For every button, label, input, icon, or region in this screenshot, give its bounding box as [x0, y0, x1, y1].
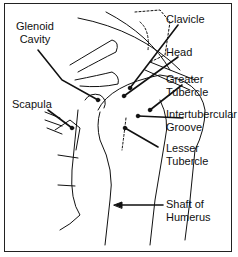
label-intertubercular-groove: Intertubercular Groove	[166, 108, 237, 134]
label-head: Head	[166, 46, 192, 59]
label-scapula: Scapula	[12, 98, 52, 111]
label-greater-tubercle: Greater Tubercle	[166, 73, 208, 99]
label-lesser-tubercle: Lesser Tubercle	[166, 142, 208, 168]
label-glenoid-cavity: Glenoid Cavity	[16, 20, 54, 46]
label-clavicle: Clavicle	[166, 13, 205, 26]
label-shaft-of-humerus: Shaft of Humerus	[166, 198, 211, 224]
